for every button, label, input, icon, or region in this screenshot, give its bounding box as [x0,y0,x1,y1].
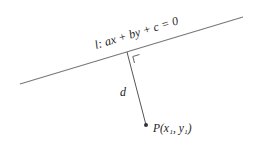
diagram-canvas: l: ax + by + c = 0 d P(x₁, y₁) [0,0,254,145]
distance-label-d: d [120,85,127,99]
point-p-dot [144,123,148,127]
right-angle-marker-icon [133,55,140,64]
perpendicular-segment-d [127,52,146,125]
line-label-group: l: ax + by + c = 0 [93,14,180,52]
diagram-svg: l: ax + by + c = 0 d P(x₁, y₁) [0,0,254,145]
point-label-p: P(x₁, y₁) [152,122,192,135]
line-label: l: ax + by + c = 0 [93,14,180,52]
